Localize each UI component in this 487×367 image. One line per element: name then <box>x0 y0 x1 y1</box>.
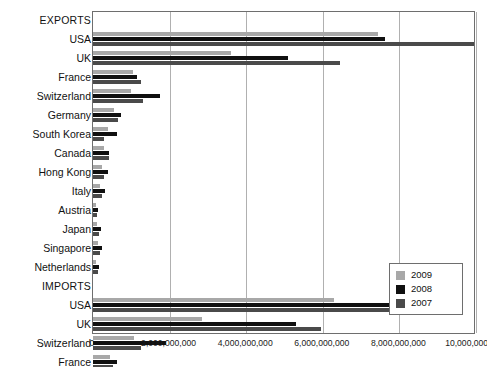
bar-2007 <box>93 194 102 198</box>
chart-row: Canada <box>0 144 487 163</box>
category-label: Netherlands <box>0 258 91 277</box>
category-label: UK <box>0 315 91 334</box>
bar-group <box>93 49 476 68</box>
category-label: Singapore <box>0 239 91 258</box>
bar-2007 <box>93 175 104 179</box>
chart-row: Hong Kong <box>0 163 487 182</box>
x-tick-label: 4,000,000,000 <box>218 338 273 348</box>
bar-2008 <box>93 303 415 307</box>
bar-group <box>93 239 476 258</box>
chart-row: Japan <box>0 220 487 239</box>
bar-2007 <box>93 232 99 236</box>
category-label: South Korea <box>0 125 91 144</box>
bar-2007 <box>93 156 109 160</box>
bar-2009 <box>93 127 108 131</box>
section-label: IMPORTS <box>0 277 91 296</box>
x-axis: 02,000,000,0004,000,000,0006,000,000,000… <box>92 334 475 358</box>
bar-group <box>93 144 476 163</box>
category-label: Italy <box>0 182 91 201</box>
legend-swatch-2009 <box>396 271 405 280</box>
x-tick-label: 2,000,000,000 <box>141 338 196 348</box>
chart-row: USA <box>0 30 487 49</box>
chart-legend: 2009 2008 2007 <box>389 263 463 315</box>
legend-item: 2009 <box>396 268 457 282</box>
category-label: USA <box>0 296 91 315</box>
bar-2009 <box>93 260 96 264</box>
bar-2008 <box>93 132 117 136</box>
bar-2008 <box>93 37 385 41</box>
bar-2009 <box>93 108 114 112</box>
legend-item: 2008 <box>396 282 457 296</box>
legend-swatch-2008 <box>396 285 405 294</box>
bar-2009 <box>93 89 131 93</box>
chart-row: Austria <box>0 201 487 220</box>
category-label: Hong Kong <box>0 163 91 182</box>
bar-group <box>93 201 476 220</box>
bar-2007 <box>93 118 118 122</box>
chart-row: UK <box>0 315 487 334</box>
bar-2009 <box>93 32 378 36</box>
bar-2009 <box>93 70 133 74</box>
bar-2007 <box>93 61 340 65</box>
bar-2008 <box>93 227 101 231</box>
bar-2009 <box>93 298 334 302</box>
bar-group <box>93 125 476 144</box>
bar-2008 <box>93 208 98 212</box>
bar-2007 <box>93 327 321 331</box>
bar-2008 <box>93 265 99 269</box>
bar-2009 <box>93 51 231 55</box>
category-label: France <box>0 353 91 367</box>
chart-row: Switzerland <box>0 87 487 106</box>
bar-group <box>93 68 476 87</box>
bar-group <box>93 182 476 201</box>
bar-2008 <box>93 113 121 117</box>
bar-2008 <box>93 151 109 155</box>
bar-2008 <box>93 56 288 60</box>
bar-2009 <box>93 203 96 207</box>
bar-2009 <box>93 241 98 245</box>
legend-label-2008: 2008 <box>411 282 432 296</box>
bar-2008 <box>93 94 160 98</box>
x-tick-label: 0 <box>90 338 95 348</box>
chart-row: Germany <box>0 106 487 125</box>
x-tick-label: 6,000,000,000 <box>294 338 349 348</box>
bar-2007 <box>93 270 98 274</box>
bar-2007 <box>93 42 474 46</box>
bar-2007 <box>93 99 143 103</box>
category-label: Switzerland <box>0 87 91 106</box>
category-label: Austria <box>0 201 91 220</box>
x-tick-label: 8,000,000,000 <box>371 338 426 348</box>
category-label: Switzerland <box>0 334 91 353</box>
category-label: Germany <box>0 106 91 125</box>
category-label: USA <box>0 30 91 49</box>
x-tick-label: 10,000,000,000 <box>445 338 487 348</box>
bar-2008 <box>93 360 117 364</box>
bar-2007 <box>93 213 97 217</box>
bar-group <box>93 163 476 182</box>
chart-row: France <box>0 68 487 87</box>
bar-2009 <box>93 184 100 188</box>
bar-2009 <box>93 222 97 226</box>
bar-group <box>93 315 476 334</box>
bar-group <box>93 30 476 49</box>
bar-2008 <box>93 189 105 193</box>
chart-row: South Korea <box>0 125 487 144</box>
legend-item: 2007 <box>396 296 457 310</box>
legend-label-2007: 2007 <box>411 296 432 310</box>
category-label: Japan <box>0 220 91 239</box>
legend-swatch-2007 <box>396 299 405 308</box>
bar-group <box>93 220 476 239</box>
bar-2007 <box>93 308 434 312</box>
bar-2007 <box>93 137 104 141</box>
bar-2008 <box>93 170 108 174</box>
bar-2008 <box>93 322 296 326</box>
category-label: France <box>0 68 91 87</box>
legend-label-2009: 2009 <box>411 268 432 282</box>
bar-2007 <box>93 251 100 255</box>
bar-2009 <box>93 317 202 321</box>
section-header-row: EXPORTS <box>0 11 487 30</box>
chart-row: Italy <box>0 182 487 201</box>
bar-2009 <box>93 146 104 150</box>
chart-row: Singapore <box>0 239 487 258</box>
category-label: Canada <box>0 144 91 163</box>
